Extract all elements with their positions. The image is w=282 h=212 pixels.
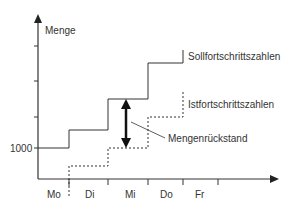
day-label-mi: Mi (125, 189, 136, 200)
day-label-fr: Fr (195, 189, 205, 200)
day-label-do: Do (160, 189, 173, 200)
backlog-leader-line (131, 122, 165, 138)
backlog-label: Mengenrückstand (168, 133, 248, 144)
ist-label: Istfortschrittszahlen (188, 99, 274, 110)
y-axis-label: Menge (45, 25, 76, 36)
day-label-di: Di (85, 189, 94, 200)
soll-label: Sollfortschrittszahlen (188, 51, 280, 62)
backlog-double-arrow-icon (121, 99, 131, 148)
soll-line (38, 50, 183, 148)
y-value-label: 1000 (10, 143, 33, 154)
day-label-mo: Mo (47, 189, 61, 200)
x-axis (38, 175, 279, 186)
progress-chart: Menge 1000 Sollfortschrittszahlen Istfor… (0, 0, 282, 212)
y-axis (34, 14, 42, 179)
